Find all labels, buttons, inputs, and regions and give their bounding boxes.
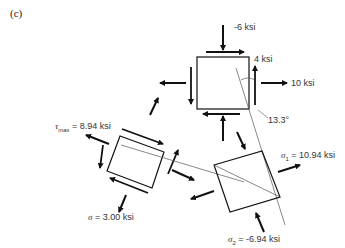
- sigma-x-label: 10 ksi: [291, 78, 315, 88]
- max-shear-element: [86, 98, 244, 212]
- sigma1-label: σ1 = 10.94 ksi: [281, 150, 335, 162]
- sigma-avg-label: σ = 3.00 ksi: [88, 212, 134, 222]
- stress-diagram: [0, 0, 345, 248]
- angle-label: 13.3°: [268, 115, 289, 125]
- principal-element: [191, 132, 300, 232]
- sigma-y-label: -6 ksi: [234, 22, 256, 32]
- tau-label: 4 ksi: [254, 54, 273, 64]
- sigma2-label: σ2 = -6.94 ksi: [228, 234, 280, 246]
- tau-max-label: τmax = 8.94 ksi: [55, 121, 111, 133]
